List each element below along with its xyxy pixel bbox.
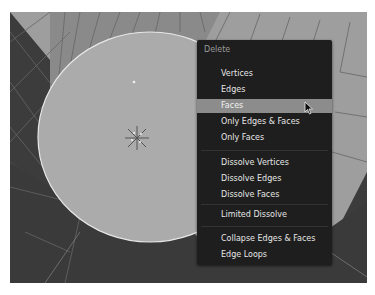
delete-menu: Delete Vertices Edges Faces Only Edges &… bbox=[197, 40, 332, 265]
pivot-star bbox=[125, 126, 149, 150]
menu-item-only-edges-faces[interactable]: Only Edges & Faces bbox=[197, 115, 332, 129]
mouse-pointer-icon bbox=[304, 101, 314, 115]
menu-item-dissolve-vertices[interactable]: Dissolve Vertices bbox=[197, 156, 332, 170]
menu-item-edges[interactable]: Edges bbox=[197, 83, 332, 97]
menu-item-limited-dissolve[interactable]: Limited Dissolve bbox=[197, 208, 332, 222]
menu-item-dissolve-faces[interactable]: Dissolve Faces bbox=[197, 188, 332, 202]
menu-separator bbox=[201, 150, 328, 151]
menu-separator bbox=[201, 226, 328, 227]
menu-separator bbox=[201, 204, 328, 205]
menu-item-dissolve-edges[interactable]: Dissolve Edges bbox=[197, 172, 332, 186]
menu-item-only-faces[interactable]: Only Faces bbox=[197, 131, 332, 145]
menu-item-faces[interactable]: Faces bbox=[197, 99, 332, 113]
menu-item-edge-loops[interactable]: Edge Loops bbox=[197, 248, 332, 262]
menu-item-collapse-edges-faces[interactable]: Collapse Edges & Faces bbox=[197, 232, 332, 246]
menu-title: Delete bbox=[204, 45, 230, 54]
menu-item-vertices[interactable]: Vertices bbox=[197, 67, 332, 81]
